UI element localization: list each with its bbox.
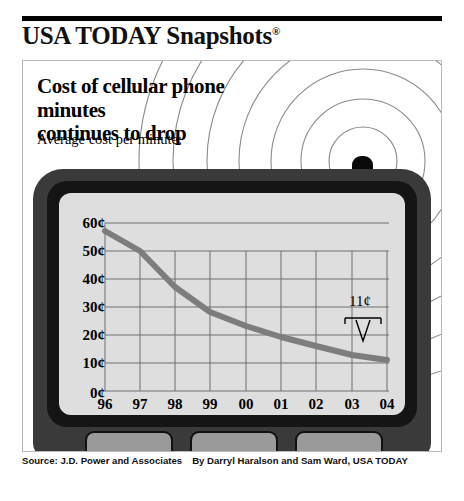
phone-key-1 xyxy=(85,431,173,452)
y-tick-30: 30¢ xyxy=(83,299,106,316)
x-tick-03: 03 xyxy=(345,396,360,413)
masthead-title: USA TODAY Snapshots® xyxy=(22,22,442,52)
x-tick-96: 96 xyxy=(98,396,113,413)
phone-key-3 xyxy=(295,431,383,452)
x-tick-04: 04 xyxy=(380,396,395,413)
x-tick-01: 01 xyxy=(274,396,289,413)
x-tick-02: 02 xyxy=(309,396,324,413)
snapshot-infographic: USA TODAY Snapshots® Cost of cellular ph… xyxy=(0,0,464,501)
y-tick-60: 60¢ xyxy=(83,215,106,232)
masthead-rule xyxy=(22,16,442,21)
credit-text: By Darryl Haralson and Sam Ward, USA TOD… xyxy=(192,455,408,466)
phone-key-2 xyxy=(190,431,278,452)
value-callout-11c: 11¢ xyxy=(349,293,371,310)
y-axis-labels: 60¢ 50¢ 40¢ 30¢ 20¢ 10¢ 0¢ xyxy=(59,193,105,415)
registered-mark-icon: ® xyxy=(272,25,280,37)
headline-line-1: Cost of cellular phone minutes xyxy=(37,75,297,122)
phone-keypad xyxy=(33,431,431,452)
y-tick-10: 10¢ xyxy=(83,355,106,372)
footer: Source: J.D. Power and AssociatesBy Darr… xyxy=(22,455,452,466)
phone-illustration: 60¢ 50¢ 40¢ 30¢ 20¢ 10¢ 0¢ 96 97 98 99 0… xyxy=(33,169,431,452)
source-text: Source: J.D. Power and Associates xyxy=(22,455,182,466)
x-tick-98: 98 xyxy=(168,396,183,413)
x-tick-97: 97 xyxy=(133,396,148,413)
x-tick-00: 00 xyxy=(239,396,254,413)
phone-screen: 60¢ 50¢ 40¢ 30¢ 20¢ 10¢ 0¢ 96 97 98 99 0… xyxy=(59,193,405,415)
y-tick-20: 20¢ xyxy=(83,327,106,344)
x-tick-99: 99 xyxy=(203,396,218,413)
masthead-brand: USA TODAY Snapshots xyxy=(22,22,272,49)
y-tick-40: 40¢ xyxy=(83,271,106,288)
phone-bezel: 60¢ 50¢ 40¢ 30¢ 20¢ 10¢ 0¢ 96 97 98 99 0… xyxy=(47,181,417,427)
y-tick-50: 50¢ xyxy=(83,243,106,260)
subhead: Average cost per minute: xyxy=(37,131,287,148)
graphic-frame: Cost of cellular phone minutes continues… xyxy=(22,60,442,452)
